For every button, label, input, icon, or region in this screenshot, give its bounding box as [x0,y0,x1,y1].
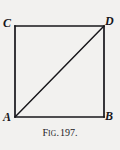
vertex-label-b: B [105,110,113,122]
caption-prefix-period: . [56,127,59,138]
figure-caption: FIG.197. [0,128,120,138]
vertex-label-d: D [105,15,114,27]
vertex-label-a: A [3,111,11,123]
caption-figure-number: 197. [60,127,78,138]
diagonal-line-AD [16,27,104,117]
vertex-label-c: C [3,17,11,29]
figure-panel: C D A B FIG.197. [0,0,120,150]
